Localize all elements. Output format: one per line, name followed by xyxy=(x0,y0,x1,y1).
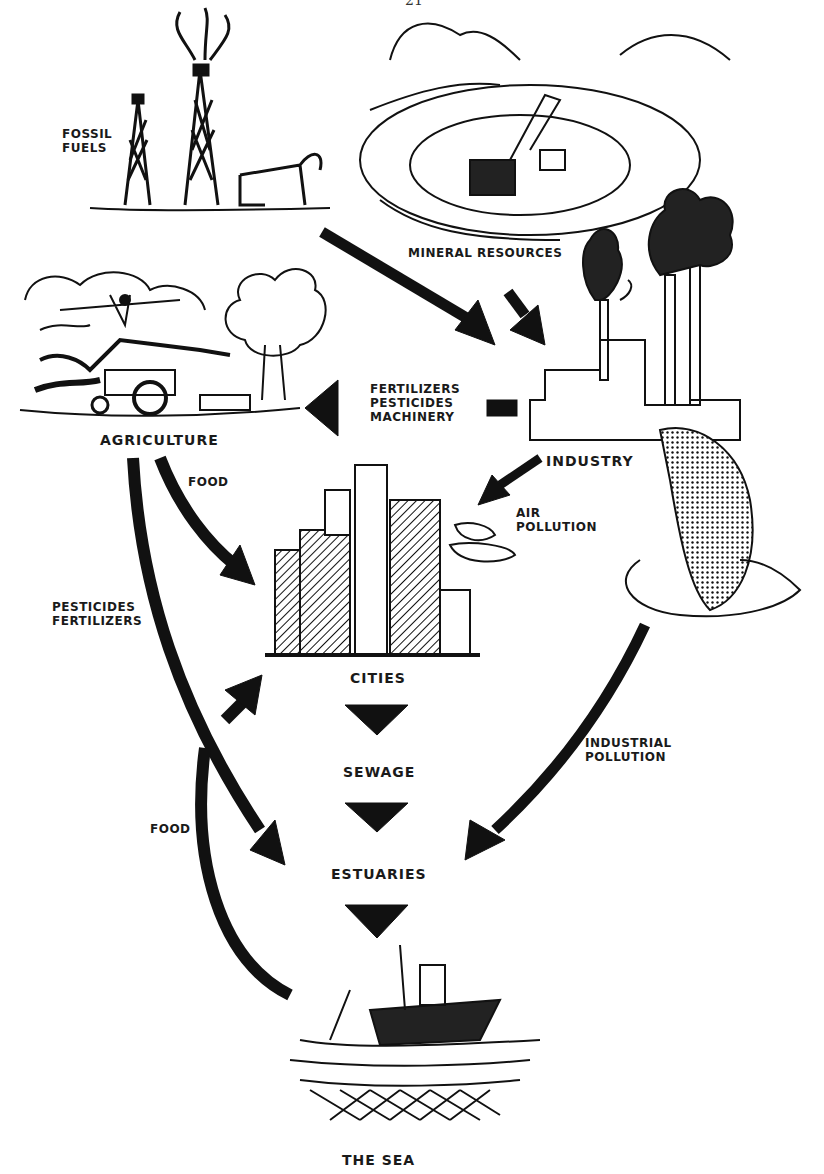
diagram-canvas xyxy=(0,0,824,1174)
city-buildings-illustration xyxy=(265,465,515,655)
label-food-to-cities: FOOD xyxy=(188,475,229,489)
label-sewage: SEWAGE xyxy=(343,764,415,780)
label-mineral-resources: MINERAL RESOURCES xyxy=(408,246,562,260)
label-fossil-fuels: FOSSIL FUELS xyxy=(62,127,112,155)
label-air-pollution: AIR POLLUTION xyxy=(516,506,597,534)
label-industry: INDUSTRY xyxy=(546,453,634,469)
label-agriculture: AGRICULTURE xyxy=(100,432,219,448)
waste-outflow-illustration xyxy=(626,428,800,616)
label-the-sea: THE SEA xyxy=(342,1152,415,1168)
fishing-boat-illustration xyxy=(290,945,540,1120)
label-cities: CITIES xyxy=(350,670,406,686)
label-estuaries: ESTUARIES xyxy=(331,866,427,882)
oil-derrick-illustration xyxy=(90,8,330,210)
farm-illustration xyxy=(20,269,326,416)
label-food-from-sea: FOOD xyxy=(150,822,191,836)
factory-illustration xyxy=(530,189,740,440)
label-fertilizers-pesticides-machinery: FERTILIZERS PESTICIDES MACHINERY xyxy=(370,382,460,424)
label-pesticides-fertilizers: PESTICIDES FERTILIZERS xyxy=(52,600,142,628)
label-industrial-pollution: INDUSTRIAL POLLUTION xyxy=(585,736,672,764)
